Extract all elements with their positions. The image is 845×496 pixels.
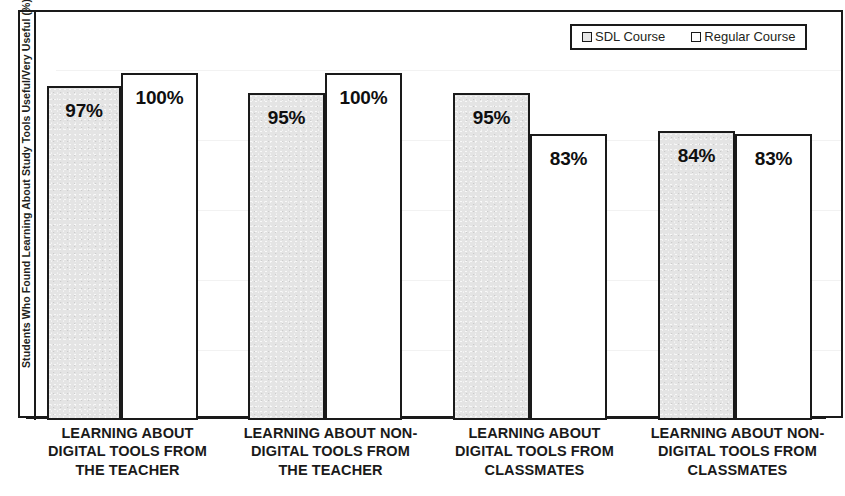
category-label-line: THE TEACHER xyxy=(228,461,433,479)
legend-swatch-icon xyxy=(582,32,592,42)
legend-item-sdl-course[interactable]: SDL Course xyxy=(582,30,665,43)
category-label-line: CLASSMATES xyxy=(437,461,632,479)
bar-regular-course-group-0[interactable]: 100% xyxy=(121,73,198,420)
bar-value-label: 97% xyxy=(49,100,119,122)
bar-sdl-course-group-1[interactable]: 95% xyxy=(248,93,325,420)
bar-sdl-course-group-2[interactable]: 95% xyxy=(453,93,530,420)
bar-regular-course-group-3[interactable]: 83% xyxy=(735,134,812,420)
bar-value-label: 95% xyxy=(455,107,528,129)
bar-regular-course-group-1[interactable]: 100% xyxy=(325,73,402,420)
bar-sdl-course-group-3[interactable]: 84% xyxy=(658,131,735,420)
legend-label: Regular Course xyxy=(704,30,795,43)
legend-item-regular-course[interactable]: Regular Course xyxy=(691,30,795,43)
bar-value-label: 100% xyxy=(327,87,400,109)
category-label-line: THE TEACHER xyxy=(30,461,225,479)
bar-value-label: 84% xyxy=(660,145,733,167)
gridline xyxy=(56,70,841,71)
category-label-line: LEARNING ABOUT NON- xyxy=(228,424,433,442)
category-label-line: LEARNING ABOUT NON- xyxy=(635,424,840,442)
category-label-line: DIGITAL TOOLS FROM xyxy=(228,442,433,460)
category-label-line: DIGITAL TOOLS FROM xyxy=(30,442,225,460)
bar-value-label: 83% xyxy=(737,148,810,170)
category-label-line: LEARNING ABOUT xyxy=(437,424,632,442)
bar-chart: Students Who Found Learning About Study … xyxy=(0,0,845,496)
legend-swatch-icon xyxy=(691,32,701,42)
bar-sdl-course-group-0[interactable]: 97% xyxy=(47,86,121,420)
bar-regular-course-group-2[interactable]: 83% xyxy=(530,134,607,420)
bar-value-label: 95% xyxy=(250,107,323,129)
category-label-line: CLASSMATES xyxy=(635,461,840,479)
category-label-line: DIGITAL TOOLS FROM xyxy=(437,442,632,460)
y-axis-title: Students Who Found Learning About Study … xyxy=(20,16,32,368)
category-label-line: LEARNING ABOUT xyxy=(30,424,225,442)
category-label-1: LEARNING ABOUT NON-DIGITAL TOOLS FROMTHE… xyxy=(228,424,433,479)
category-labels: LEARNING ABOUTDIGITAL TOOLS FROMTHE TEAC… xyxy=(0,424,845,496)
legend-label: SDL Course xyxy=(595,30,665,43)
bar-value-label: 83% xyxy=(532,148,605,170)
y-axis-line xyxy=(34,12,36,420)
category-label-2: LEARNING ABOUTDIGITAL TOOLS FROMCLASSMAT… xyxy=(437,424,632,479)
category-label-3: LEARNING ABOUT NON-DIGITAL TOOLS FROMCLA… xyxy=(635,424,840,479)
category-label-0: LEARNING ABOUTDIGITAL TOOLS FROMTHE TEAC… xyxy=(30,424,225,479)
legend: SDL Course Regular Course xyxy=(570,24,807,50)
category-label-line: DIGITAL TOOLS FROM xyxy=(635,442,840,460)
bar-value-label: 100% xyxy=(123,87,196,109)
